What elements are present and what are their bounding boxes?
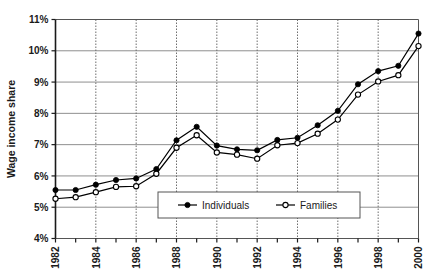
data-point-marker — [255, 148, 260, 153]
data-point-marker — [73, 187, 78, 192]
data-point-marker — [275, 143, 280, 148]
data-point-marker — [295, 135, 300, 140]
gridlines-horizontal — [56, 51, 419, 207]
y-tick-label: 7% — [34, 139, 49, 150]
data-point-marker — [93, 190, 98, 195]
data-point-marker — [53, 196, 58, 201]
data-point-marker — [315, 123, 320, 128]
legend-marker-icon — [283, 202, 288, 207]
chart-container: 4%5%6%7%8%9%10%11%1982198419861988199019… — [0, 0, 436, 280]
data-point-marker — [355, 82, 360, 87]
y-tick-label: 11% — [29, 14, 49, 25]
x-tick-label: 1982 — [50, 246, 61, 269]
data-point-marker — [154, 171, 159, 176]
y-tick-label: 8% — [34, 108, 49, 119]
line-chart: 4%5%6%7%8%9%10%11%1982198419861988199019… — [0, 0, 436, 280]
data-point-marker — [234, 147, 239, 152]
series-individuals — [53, 31, 421, 193]
data-point-marker — [416, 43, 421, 48]
data-point-marker — [214, 143, 219, 148]
data-point-marker — [134, 184, 139, 189]
data-point-marker — [194, 133, 199, 138]
data-point-marker — [113, 177, 118, 182]
x-tick-label: 1998 — [373, 246, 384, 269]
data-point-marker — [255, 156, 260, 161]
data-point-marker — [73, 195, 78, 200]
y-axis-title: Wage income share — [5, 80, 17, 178]
x-tick-label: 1996 — [333, 246, 344, 269]
chart-legend[interactable]: IndividualsFamilies — [158, 192, 360, 218]
legend-label: Families — [300, 200, 337, 211]
data-point-marker — [134, 176, 139, 181]
data-point-marker — [275, 137, 280, 142]
x-tick-label: 2000 — [413, 246, 424, 269]
data-point-marker — [396, 73, 401, 78]
legend-label: Individuals — [202, 200, 249, 211]
data-point-marker — [295, 140, 300, 145]
data-point-marker — [416, 31, 421, 36]
data-point-marker — [174, 145, 179, 150]
y-tick-label: 6% — [34, 171, 49, 182]
data-point-marker — [234, 152, 239, 157]
data-point-marker — [53, 187, 58, 192]
x-tick-label: 1986 — [131, 246, 142, 269]
y-tick-label: 10% — [28, 45, 48, 56]
y-tick-label: 4% — [34, 233, 49, 244]
series-families — [53, 43, 421, 201]
x-tick-label: 1988 — [171, 246, 182, 269]
data-point-marker — [214, 150, 219, 155]
y-tick-label: 5% — [34, 202, 49, 213]
data-point-marker — [376, 79, 381, 84]
x-tick-label: 1994 — [292, 246, 303, 269]
data-point-marker — [335, 117, 340, 122]
data-point-marker — [174, 138, 179, 143]
y-tick-label: 9% — [34, 77, 49, 88]
x-axis-ticks: 1982198419861988199019921994199619982000 — [50, 239, 424, 269]
data-point-marker — [355, 92, 360, 97]
y-axis-title-text: Wage income share — [5, 80, 17, 178]
data-point-marker — [194, 124, 199, 129]
data-point-marker — [335, 108, 340, 113]
data-point-marker — [396, 63, 401, 68]
data-point-marker — [113, 184, 118, 189]
legend-marker-icon — [185, 202, 190, 207]
data-point-marker — [376, 69, 381, 74]
data-point-marker — [315, 131, 320, 136]
series-line — [56, 34, 419, 190]
x-tick-label: 1984 — [91, 246, 102, 269]
x-tick-label: 1992 — [252, 246, 263, 269]
x-tick-label: 1990 — [212, 246, 223, 269]
y-axis-ticks: 4%5%6%7%8%9%10%11% — [28, 14, 55, 244]
data-point-marker — [93, 182, 98, 187]
